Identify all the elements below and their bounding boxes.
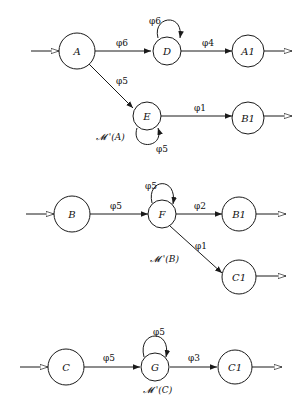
node-label-f: F <box>158 209 167 220</box>
node-label-c1: C1 <box>232 272 246 283</box>
node-g: G <box>141 353 169 381</box>
diagram-m-a: φ6 φ6 φ4 φ5 φ5 φ1 A D A1 <box>31 16 292 154</box>
edge-label-e-loop: φ5 <box>156 144 168 154</box>
node-a1: A1 <box>232 35 264 67</box>
node-f: F <box>148 200 176 228</box>
node-label-e: E <box>142 111 151 122</box>
edge-label-d-loop: φ6 <box>149 16 161 26</box>
edge-a-e <box>89 64 133 108</box>
edge-label-g-c1: φ3 <box>188 353 200 363</box>
caption-m-b: 𝓜 '(B) <box>150 254 179 264</box>
node-d: D <box>153 37 181 65</box>
caption-m-a: 𝓜 '(A) <box>96 132 125 142</box>
node-label-a1: A1 <box>240 46 255 57</box>
diagram-m-b: φ5 φ5 φ2 φ1 B F B1 C1 𝓜 '(B) <box>26 181 286 294</box>
node-label-b: B <box>67 209 75 220</box>
diagram-m-c: φ5 φ5 φ3 C G C1 𝓜 '(C) <box>20 327 282 395</box>
node-c1: C1 <box>222 260 256 294</box>
edge-label-d-a1: φ4 <box>202 38 214 48</box>
edge-label-f-loop: φ5 <box>145 181 157 191</box>
node-b: B <box>54 196 90 232</box>
node-label-b1: B1 <box>231 209 246 220</box>
node-label-b1: B1 <box>240 113 255 124</box>
node-label-c1: C1 <box>228 362 242 373</box>
edge-label-f-b1: φ2 <box>194 201 206 211</box>
edge-label-g-loop: φ5 <box>153 327 165 337</box>
state-diagrams: φ6 φ6 φ4 φ5 φ5 φ1 A D A1 <box>0 0 305 406</box>
node-label-c: C <box>62 362 70 373</box>
edge-label-a-e: φ5 <box>116 76 128 86</box>
edge-label-a-d: φ6 <box>116 38 128 48</box>
caption-m-c: 𝓜 '(C) <box>143 385 173 395</box>
edge-label-c-g: φ5 <box>103 353 115 363</box>
node-label-a: A <box>72 46 80 57</box>
edge-label-f-c1: φ1 <box>195 241 207 251</box>
node-b1: B1 <box>232 102 264 134</box>
edge-label-b-f: φ5 <box>110 201 122 211</box>
node-c: C <box>48 349 84 385</box>
node-b1: B1 <box>222 197 256 231</box>
node-a: A <box>59 33 95 69</box>
node-e: E <box>133 102 161 130</box>
node-c1: C1 <box>218 350 252 384</box>
node-label-g: G <box>151 362 159 373</box>
node-label-d: D <box>162 46 171 57</box>
edge-label-e-b1: φ1 <box>194 103 206 113</box>
